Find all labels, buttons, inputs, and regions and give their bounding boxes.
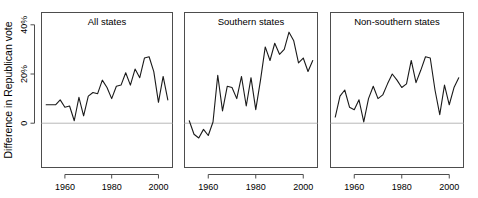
figure-panel-chart: Difference in Republican vote020%40%All … (0, 0, 478, 198)
panel-3: Non-southern states196019802000 (331, 13, 464, 192)
x-tick-label: 2000 (293, 182, 313, 192)
y-tick-label: 20% (19, 65, 29, 83)
x-tick-label: 1980 (392, 182, 412, 192)
y-tick-label: 0 (19, 121, 29, 126)
x-tick-label: 2000 (148, 182, 168, 192)
y-axis: 020%40% (19, 16, 35, 126)
x-tick-label: 1980 (246, 182, 266, 192)
y-tick-label: 40% (19, 16, 29, 34)
x-tick-label: 1960 (198, 182, 218, 192)
panel-1: All states196019802000 (42, 13, 173, 192)
panel-title: Southern states (218, 16, 285, 27)
panel-2: Southern states196019802000 (185, 13, 318, 192)
x-tick-label: 1960 (344, 182, 364, 192)
chart-canvas: Difference in Republican vote020%40%All … (0, 0, 478, 198)
series-line-2 (189, 32, 313, 138)
y-axis-title: Difference in Republican vote (2, 21, 14, 158)
panel-title: All states (88, 16, 127, 27)
x-tick-label: 1960 (55, 182, 75, 192)
series-line-3 (335, 57, 459, 122)
panel-title: Non-southern states (354, 16, 440, 27)
panel-frame (42, 13, 173, 168)
x-tick-label: 1980 (102, 182, 122, 192)
series-line-1 (46, 57, 168, 121)
panel-frame (185, 13, 318, 168)
x-tick-label: 2000 (439, 182, 459, 192)
